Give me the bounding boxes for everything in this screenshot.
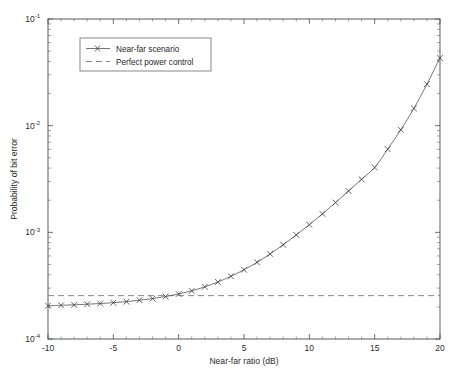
x-axis-title: Near-far ratio (dB) xyxy=(209,356,278,366)
x-tick-label: 10 xyxy=(305,343,315,353)
legend-label-perfect-power-control: Perfect power control xyxy=(116,58,194,67)
chart-background xyxy=(0,0,467,372)
y-axis-title: Probability of bit error xyxy=(9,138,19,220)
x-tick-label: 20 xyxy=(435,343,445,353)
x-tick-label: 15 xyxy=(370,343,380,353)
bit-error-rate-chart: 10-410-310-210-1 -10-505101520 Near-far … xyxy=(0,0,467,372)
chart-canvas: 10-410-310-210-1 -10-505101520 Near-far … xyxy=(0,0,467,372)
x-tick-label: 5 xyxy=(242,343,247,353)
chart-legend[interactable]: Near-far scenario Perfect power control xyxy=(80,38,211,71)
legend-label-near-far: Near-far scenario xyxy=(116,45,180,54)
x-tick-label: -10 xyxy=(42,343,55,353)
x-tick-label: 0 xyxy=(176,343,181,353)
x-tick-label: -5 xyxy=(110,343,118,353)
